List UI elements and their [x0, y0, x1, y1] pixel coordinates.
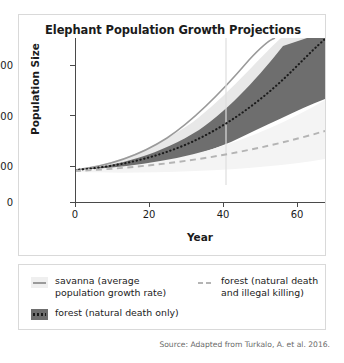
chart-legend: savanna (average population growth rate)…: [18, 264, 326, 330]
x-tick-mark-40: [223, 203, 224, 207]
legend-item-savanna[interactable]: savanna (average population growth rate): [31, 275, 181, 299]
x-tick-label-20: 20: [134, 209, 164, 220]
chart-card: Elephant Population Growth Projections P…: [18, 14, 326, 256]
x-tick-mark-0: [75, 203, 76, 207]
y-axis-label: Population Size: [29, 29, 41, 149]
x-tick-label-40: 40: [208, 209, 238, 220]
y-tick-label-3000: 3000: [0, 60, 13, 71]
plot-area: [75, 38, 325, 203]
x-axis-label: Year: [75, 231, 325, 243]
y-tick-label-1000: 1000: [0, 161, 13, 172]
source-attribution: Source: Adapted from Turkalo, A. et al. …: [0, 340, 330, 349]
dashed-line-swatch-icon: [197, 277, 214, 288]
legend-label-savanna: savanna (average population growth rate): [55, 275, 181, 299]
chart-title: Elephant Population Growth Projections: [19, 23, 327, 37]
x-tick-label-60: 60: [282, 209, 312, 220]
y-tick-label-0: 0: [0, 197, 13, 208]
legend-label-forest-illegal-killing: forest (natural death and illegal killin…: [221, 275, 319, 299]
x-tick-mark-60: [297, 203, 298, 207]
plot-axes-frame: [75, 38, 325, 203]
x-tick-label-0: 0: [60, 209, 90, 220]
legend-item-forest-natural-death[interactable]: forest (natural death only): [31, 307, 211, 320]
legend-item-forest-illegal-killing[interactable]: forest (natural death and illegal killin…: [197, 275, 319, 299]
dotted-line-swatch-icon: [31, 309, 48, 320]
solid-line-swatch-icon: [31, 277, 48, 288]
y-tick-label-2000: 2000: [0, 111, 13, 122]
legend-label-forest-natural-death: forest (natural death only): [55, 307, 179, 319]
chart-page: Elephant Population Growth Projections P…: [0, 0, 344, 363]
x-tick-mark-20: [149, 203, 150, 207]
